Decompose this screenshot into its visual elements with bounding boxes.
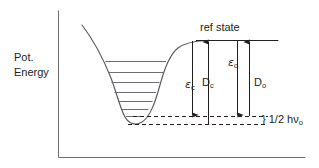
- zero-point-energy-text: } 1/2 hν: [262, 113, 299, 125]
- diagram-canvas: [0, 0, 319, 168]
- dissociation-c-symbol: D: [202, 76, 210, 88]
- potential-curve: [82, 25, 278, 124]
- y-axis-label-line2: Energy: [14, 65, 49, 80]
- zero-point-energy-label: } 1/2 hνo: [262, 114, 303, 127]
- epsilon-o-label: εo: [228, 57, 238, 70]
- dissociation-o-label: Do: [254, 77, 266, 90]
- dissociation-c-label: Dc: [202, 77, 214, 90]
- y-axis-label-line1: Pot.: [14, 50, 49, 65]
- y-axis-label: Pot. Energy: [14, 50, 49, 80]
- zero-point-dashed-lines: [128, 117, 268, 125]
- dissociation-o-symbol: D: [254, 76, 262, 88]
- ref-state-label: ref state: [200, 22, 240, 33]
- dissociation-c-subscript: c: [210, 81, 214, 90]
- dissociation-o-subscript: o: [262, 81, 266, 90]
- epsilon-c-subscript: c: [191, 83, 195, 92]
- potential-energy-diagram: Pot. Energy ref state εc Dc εo Do } 1/2 …: [0, 0, 319, 168]
- epsilon-o-subscript: o: [234, 61, 238, 70]
- axes: [59, 11, 306, 158]
- zero-point-energy-subscript: o: [299, 118, 303, 127]
- epsilon-c-label: εc: [185, 79, 195, 92]
